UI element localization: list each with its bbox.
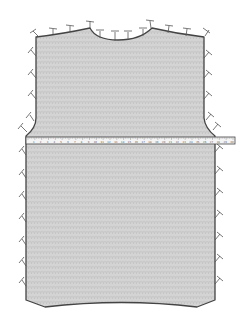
tape-tick-label: 16 [135,141,139,144]
tape-tick-label: 22 [176,141,180,144]
tape-tick-label: 15 [128,141,132,144]
tape-tick-label: 25 [196,141,200,144]
measuring-tape: 1234567891011121314151617181920212223242… [26,137,235,144]
tape-tick-label: 30 [230,141,234,144]
tape-tick-label: 17 [142,141,146,144]
garment-piece [26,28,215,307]
tape-tick-label: 10 [94,141,98,144]
tape-tick-label: 26 [203,141,207,144]
tape-tick-label: 14 [121,141,125,144]
tape-tick-label: 20 [162,141,166,144]
tape-tick-label: 12 [107,141,111,144]
tape-tick-label: 28 [217,141,221,144]
blocking-diagram: 1234567891011121314151617181920212223242… [0,0,247,331]
tape-tick-label: 11 [101,141,105,144]
tape-tick-label: 29 [224,141,228,144]
tape-tick-label: 24 [189,141,193,144]
tape-tick-label: 23 [183,141,187,144]
tape-tick-label: 18 [148,141,152,144]
tape-tick-label: 19 [155,141,159,144]
tape-tick-label: 27 [210,141,214,144]
tape-tick-label: 13 [114,141,118,144]
tape-tick-label: 21 [169,141,173,144]
